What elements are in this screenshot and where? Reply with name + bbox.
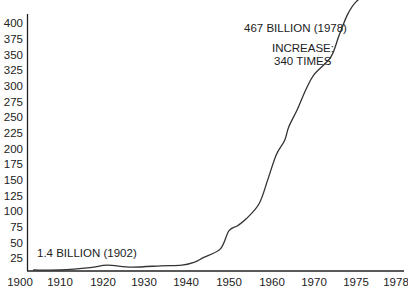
x-tick-labels: 1900191019201930194019501960197019751978 bbox=[7, 276, 408, 288]
y-tick-label: 225 bbox=[4, 127, 23, 139]
x-tick-label: 1910 bbox=[47, 276, 73, 288]
line-chart: 2550751001251501752002252502753003253503… bbox=[0, 0, 408, 291]
y-tick-labels: 2550751001251501752002252502753003253503… bbox=[4, 17, 23, 264]
y-tick-label: 375 bbox=[4, 33, 23, 45]
y-tick-label: 150 bbox=[4, 174, 23, 186]
x-tick-label: 1978 bbox=[383, 276, 408, 288]
x-tick-label: 1960 bbox=[259, 276, 285, 288]
x-tick-label: 1970 bbox=[301, 276, 327, 288]
y-tick-label: 125 bbox=[4, 190, 23, 202]
y-tick-label: 250 bbox=[4, 111, 23, 123]
y-tick-label: 100 bbox=[4, 205, 23, 217]
y-tick-label: 50 bbox=[10, 237, 23, 249]
increase-label: INCREASE: bbox=[272, 42, 334, 54]
y-tick-label: 400 bbox=[4, 17, 23, 29]
y-tick-label: 175 bbox=[4, 158, 23, 170]
x-tick-label: 1920 bbox=[90, 276, 116, 288]
y-tick-label: 200 bbox=[4, 143, 23, 155]
data-line bbox=[34, 0, 396, 270]
start-annotation: 1.4 BILLION (1902) bbox=[37, 247, 137, 259]
y-tick-label: 275 bbox=[4, 96, 23, 108]
x-tick-label: 1975 bbox=[343, 276, 369, 288]
y-tick-label: 25 bbox=[10, 252, 23, 264]
y-tick-label: 300 bbox=[4, 80, 23, 92]
y-tick-label: 75 bbox=[10, 221, 23, 233]
end-annotation: 467 BILLION (1978) bbox=[244, 22, 347, 34]
y-tick-label: 350 bbox=[4, 49, 23, 61]
increase-value: 340 TIMES bbox=[274, 55, 332, 67]
x-tick-label: 1930 bbox=[131, 276, 157, 288]
x-tick-label: 1900 bbox=[7, 276, 33, 288]
y-tick-label: 325 bbox=[4, 64, 23, 76]
x-tick-label: 1940 bbox=[173, 276, 199, 288]
x-tick-label: 1950 bbox=[216, 276, 242, 288]
